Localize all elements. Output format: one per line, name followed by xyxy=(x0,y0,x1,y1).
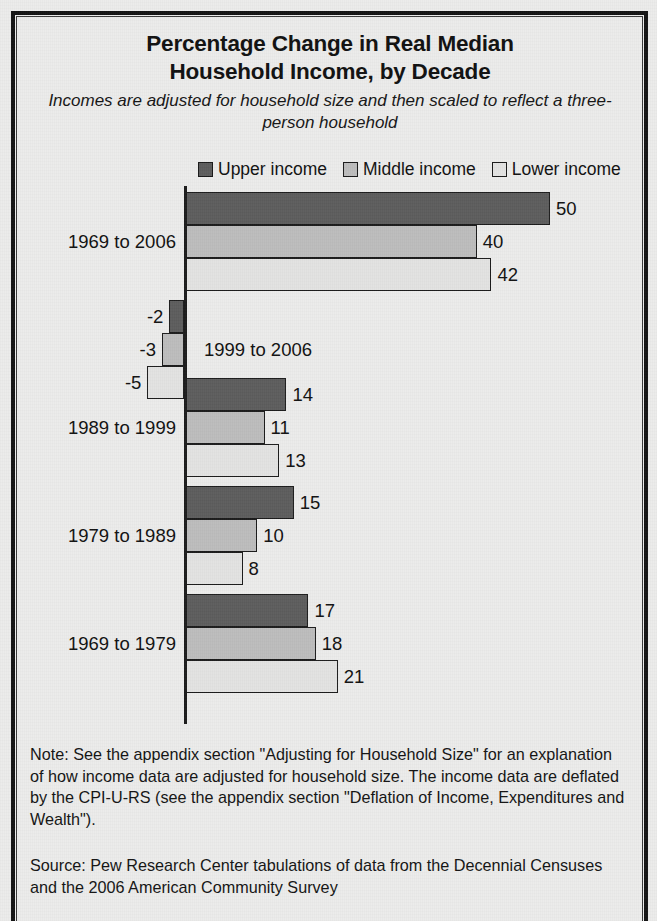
bar-value-label: 42 xyxy=(497,265,518,284)
page-title: Percentage Change in Real Median Househo… xyxy=(30,30,630,86)
legend-label: Middle income xyxy=(363,159,476,180)
bar-value-label: 17 xyxy=(314,601,335,620)
bar-value-label: -2 xyxy=(147,307,163,326)
legend-item-1: Middle income xyxy=(343,159,476,180)
bar-row: 17 xyxy=(0,594,657,627)
bar-value-label: 10 xyxy=(263,526,284,545)
bar: 17 xyxy=(184,594,308,627)
zero-axis-line xyxy=(184,186,187,724)
category-label: 1999 to 2006 xyxy=(204,341,312,360)
chart-plot-area: 5040421969 to 2006-2-3-51999 to 20061411… xyxy=(0,186,657,726)
legend-swatch-middle-icon xyxy=(343,162,358,177)
bar-group: 1718211969 to 1979 xyxy=(0,594,657,693)
bar-row: -2 xyxy=(0,300,657,333)
legend-label: Lower income xyxy=(512,159,621,180)
chart-source: Source: Pew Research Center tabulations … xyxy=(30,855,627,898)
category-label: 1969 to 1979 xyxy=(68,635,176,654)
bar: 50 xyxy=(184,192,550,225)
category-label: 1979 to 1989 xyxy=(68,527,176,546)
legend-swatch-lower-icon xyxy=(492,162,507,177)
bar-group: 151081979 to 1989 xyxy=(0,486,657,585)
bar-row: 42 xyxy=(0,258,657,291)
bar-row: 15 xyxy=(0,486,657,519)
legend-item-0: Upper income xyxy=(198,159,327,180)
category-label: 1989 to 1999 xyxy=(68,419,176,438)
legend-swatch-upper-icon xyxy=(198,162,213,177)
bar-value-label: 50 xyxy=(556,199,577,218)
bar: 18 xyxy=(184,627,316,660)
title-line-2: Household Income, by Decade xyxy=(30,58,630,86)
bar: 40 xyxy=(184,225,477,258)
bar-group: 1411131989 to 1999 xyxy=(0,378,657,477)
legend-label: Upper income xyxy=(218,159,327,180)
bar: -3 xyxy=(162,333,184,366)
bar-row: 50 xyxy=(0,192,657,225)
bar: 10 xyxy=(184,519,257,552)
bar: -2 xyxy=(169,300,184,333)
bar-group: 5040421969 to 2006 xyxy=(0,192,657,291)
bar: 14 xyxy=(184,378,286,411)
bar-value-label: -3 xyxy=(140,340,156,359)
bar-value-label: 8 xyxy=(249,559,259,578)
bar-row: 8 xyxy=(0,552,657,585)
bar-row: -3 xyxy=(0,333,657,366)
bar-row: 14 xyxy=(0,378,657,411)
bar: 8 xyxy=(184,552,243,585)
bar-row: 21 xyxy=(0,660,657,693)
bar-value-label: 13 xyxy=(285,451,306,470)
legend-item-2: Lower income xyxy=(492,159,621,180)
bar-value-label: 40 xyxy=(483,232,504,251)
bar: 42 xyxy=(184,258,491,291)
bar: 15 xyxy=(184,486,294,519)
chart-figure: Percentage Change in Real Median Househo… xyxy=(0,0,657,921)
bar-row: 13 xyxy=(0,444,657,477)
bar-value-label: 21 xyxy=(344,667,365,686)
chart-subtitle: Incomes are adjusted for household size … xyxy=(38,90,622,134)
category-label: 1969 to 2006 xyxy=(68,233,176,252)
bar-value-label: 11 xyxy=(271,418,290,437)
chart-note: Note: See the appendix section "Adjustin… xyxy=(30,744,627,830)
bar: 11 xyxy=(184,411,265,444)
title-line-1: Percentage Change in Real Median xyxy=(30,30,630,58)
bar: 13 xyxy=(184,444,279,477)
bar-value-label: 18 xyxy=(322,634,343,653)
chart-legend: Upper incomeMiddle incomeLower income xyxy=(198,159,621,180)
bar-value-label: 15 xyxy=(300,493,321,512)
bar: 21 xyxy=(184,660,338,693)
bar-value-label: 14 xyxy=(292,385,313,404)
